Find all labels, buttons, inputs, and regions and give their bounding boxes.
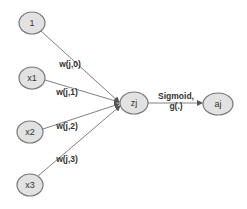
node-x1-label: x1 [27, 73, 37, 83]
node-x2: x2 [17, 121, 43, 143]
diagram-svg: w(j,0) w(j,1) w(j,2) w(j,3) Sigmoid, g(.… [0, 0, 247, 209]
node-aj: aj [203, 93, 233, 115]
node-bias: 1 [19, 12, 45, 34]
node-aj-label: aj [214, 99, 221, 109]
node-bias-label: 1 [29, 18, 34, 28]
weight-label-0: w(j,0) [58, 59, 81, 69]
weight-label-2: w(j,2) [55, 121, 78, 131]
activation-label: Sigmoid, [158, 91, 194, 101]
node-x1: x1 [19, 67, 45, 89]
weight-label-1: w(j,1) [55, 87, 78, 97]
node-zj-label: zj [131, 98, 138, 108]
neuron-diagram: w(j,0) w(j,1) w(j,2) w(j,3) Sigmoid, g(.… [0, 0, 247, 209]
weight-label-3: w(j,3) [55, 154, 78, 164]
node-zj: zj [120, 92, 148, 114]
node-x3-label: x3 [25, 180, 35, 190]
edge-x3-to-zj [38, 106, 120, 176]
activation-sublabel: g(.) [169, 101, 182, 111]
node-x3: x3 [17, 174, 43, 196]
node-x2-label: x2 [25, 127, 35, 137]
